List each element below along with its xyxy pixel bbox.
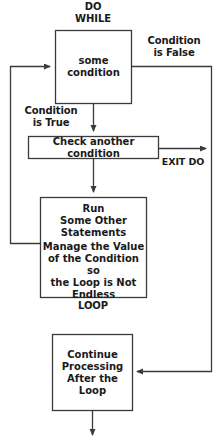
label-exit-do: EXIT DO — [156, 157, 210, 168]
box-check-another-condition-label: Check another condition — [29, 137, 158, 158]
box-run-statements-label-bottom: Manage the Value of the Condition so the… — [41, 247, 146, 295]
label-do-while: DO WHILE — [55, 1, 131, 24]
label-condition-true: Condition is True — [16, 105, 86, 128]
label-loop: LOOP — [53, 300, 133, 312]
box-run-statements-label-top: Run Some Other Statements — [41, 201, 146, 241]
box-continue-processing-label: Continue Processing After the Loop — [53, 335, 132, 410]
box-some-condition-label: some condition — [56, 31, 131, 103]
flowchart-canvas: DO WHILE Condition is False Condition is… — [0, 0, 216, 446]
label-condition-false: Condition is False — [135, 35, 213, 58]
